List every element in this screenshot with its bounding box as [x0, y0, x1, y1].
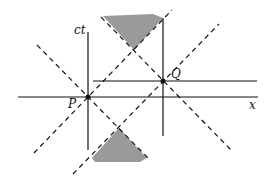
ct-axis-label: ct — [74, 24, 86, 36]
event-q-dot — [161, 79, 166, 84]
diagram-canvas — [0, 0, 270, 185]
q-lightcone-right — [73, 24, 219, 174]
x-axis-label: x — [249, 99, 256, 111]
p-lightcone-left — [37, 45, 148, 158]
event-p-dot — [86, 95, 91, 100]
event-q-label: Q — [171, 68, 181, 80]
future-shaded-region — [103, 14, 163, 50]
spacetime-diagram: ct x P Q — [0, 0, 270, 185]
event-p-label: P — [68, 98, 76, 110]
past-shaded-region — [92, 128, 147, 162]
